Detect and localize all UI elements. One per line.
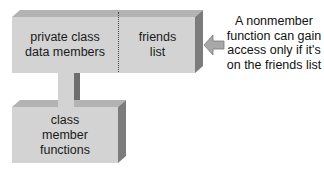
annotation-line4: on the friends list <box>222 58 324 73</box>
friends-list-label: friends list <box>120 30 195 60</box>
private-label-line1: private class <box>12 30 118 45</box>
annotation-line3: access only if it's <box>222 43 324 58</box>
friends-label-line1: friends <box>120 30 195 45</box>
private-label-line2: data members <box>12 45 118 60</box>
annotation-line2: function can gain <box>222 29 324 44</box>
member-label-line2: member <box>12 128 118 143</box>
member-label-line3: functions <box>12 143 118 158</box>
section-divider <box>118 12 119 72</box>
friends-label-line2: list <box>120 45 195 60</box>
member-functions-label: class member functions <box>12 113 118 158</box>
private-data-members-label: private class data members <box>12 30 118 60</box>
nonmember-access-annotation: A nonmember function can gain access onl… <box>222 14 324 72</box>
connector-bar <box>58 73 74 107</box>
member-label-line1: class <box>12 113 118 128</box>
annotation-line1: A nonmember <box>222 14 324 29</box>
